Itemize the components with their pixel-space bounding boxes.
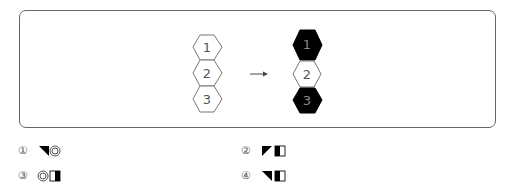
option-number: ① (18, 144, 28, 157)
option-number: ② (241, 144, 251, 157)
option-2[interactable]: ② (241, 144, 251, 157)
option-1-symbols (39, 146, 60, 156)
hex-label: 3 (303, 93, 311, 108)
option-4-symbols (262, 171, 285, 181)
hex-label: 1 (203, 40, 211, 55)
arrow-icon (250, 72, 268, 77)
hex-label: 2 (203, 66, 211, 81)
option-1[interactable]: ① (18, 144, 28, 157)
hexagon-figure: 1 2 3 1 2 3 (0, 0, 515, 187)
option-number: ④ (241, 169, 251, 182)
hex-label: 1 (303, 37, 311, 52)
hex-label: 3 (203, 92, 211, 107)
option-number: ③ (18, 169, 28, 182)
option-2-symbols (262, 146, 285, 156)
option-3-symbols (38, 171, 60, 181)
option-4[interactable]: ④ (241, 169, 251, 182)
option-3[interactable]: ③ (18, 169, 28, 182)
hex-label: 2 (303, 67, 311, 82)
